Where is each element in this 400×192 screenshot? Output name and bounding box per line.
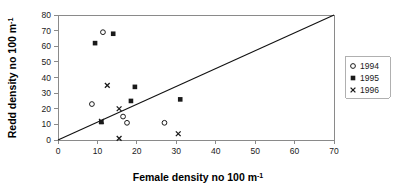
y-tick-label: 60 <box>42 41 52 51</box>
y-tick-label: 0 <box>46 135 51 145</box>
scatter-plot: 01020304050607080010203040506070 1994199… <box>0 0 400 192</box>
data-point-1995 <box>129 99 134 104</box>
series-1996 <box>99 83 181 141</box>
y-tick-label: 50 <box>42 57 52 67</box>
data-point-1994 <box>101 30 106 35</box>
data-point-1994 <box>121 114 126 119</box>
data-point-1996 <box>105 83 110 88</box>
data-point-1995 <box>93 41 98 46</box>
x-tick-label: 50 <box>250 146 260 156</box>
y-tick-label: 10 <box>42 119 52 129</box>
series-1995 <box>93 31 183 124</box>
data-points <box>90 30 183 141</box>
series-1994 <box>90 30 167 125</box>
x-tick-label: 40 <box>211 146 221 156</box>
legend-label-1994: 1994 <box>360 61 379 71</box>
axis-tick-labels: 01020304050607080010203040506070 <box>42 10 339 156</box>
x-tick-label: 10 <box>93 146 103 156</box>
data-point-1995 <box>178 97 183 102</box>
chart-figure: 01020304050607080010203040506070 1994199… <box>0 0 400 192</box>
data-point-1996 <box>176 131 181 136</box>
legend-label-1996: 1996 <box>360 85 379 95</box>
y-tick-label: 20 <box>42 104 52 114</box>
data-point-1994 <box>162 120 167 125</box>
data-point-1996 <box>117 106 122 111</box>
x-axis-title: Female density no 100 m-1 <box>133 171 264 183</box>
x-tick-label: 20 <box>132 146 142 156</box>
y-axis-title: Redd density no 100 m-1 <box>6 18 18 139</box>
data-point-1994 <box>125 120 130 125</box>
y-tick-label: 70 <box>42 26 52 36</box>
x-tick-label: 70 <box>329 146 339 156</box>
data-point-1995 <box>133 85 138 90</box>
y-tick-label: 30 <box>42 88 52 98</box>
data-point-1995 <box>111 31 116 36</box>
data-point-1994 <box>90 102 95 107</box>
x-tick-label: 60 <box>290 146 300 156</box>
x-tick-label: 0 <box>56 146 61 156</box>
y-tick-label: 40 <box>42 73 52 83</box>
y-tick-label: 80 <box>42 10 52 20</box>
x-tick-label: 30 <box>172 146 182 156</box>
legend[interactable]: 199419951996 <box>345 56 390 98</box>
legend-label-1995: 1995 <box>360 73 379 83</box>
legend-marker-1995 <box>351 76 356 81</box>
